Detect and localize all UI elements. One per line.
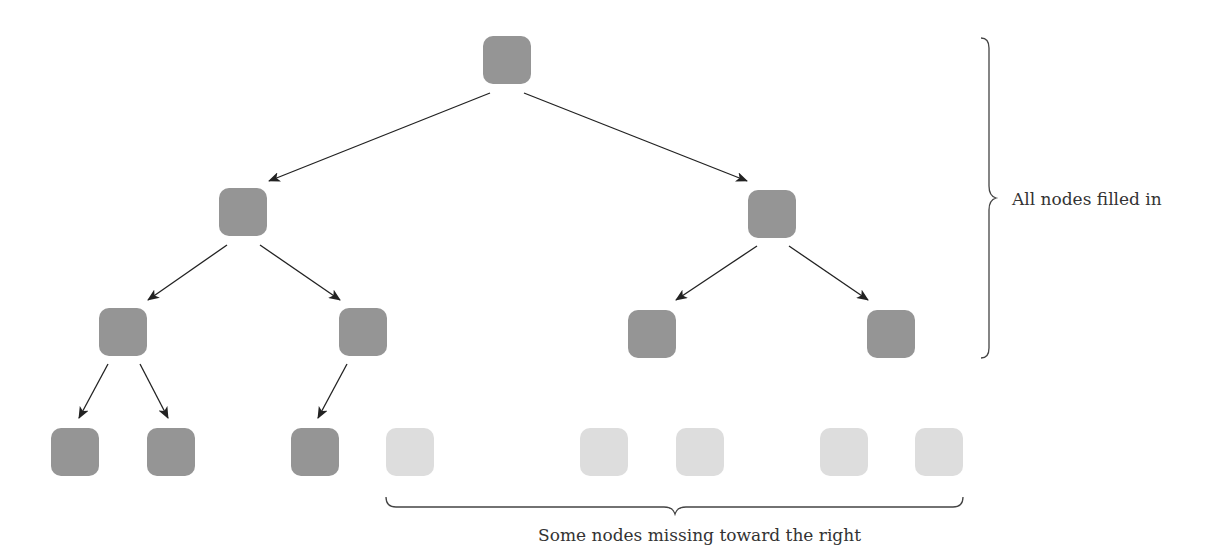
- edge-arrow-n2-n4: [148, 245, 227, 300]
- tree-node-missing-n11: [386, 428, 434, 476]
- edge-arrow-n1-n2: [269, 93, 490, 181]
- edge-arrow-n4-n9: [140, 364, 168, 418]
- tree-node-filled-n9: [147, 428, 195, 476]
- right-brace-label: All nodes filled in: [1012, 189, 1162, 209]
- tree-node-missing-n14: [820, 428, 868, 476]
- bottom-brace-label: Some nodes missing toward the right: [538, 525, 861, 545]
- tree-diagram: All nodes filled in Some nodes missing t…: [0, 0, 1227, 552]
- edge-arrow-n5-n10: [318, 364, 347, 418]
- edges-group: [79, 93, 868, 418]
- tree-node-filled-n1: [483, 36, 531, 84]
- tree-node-missing-n13: [676, 428, 724, 476]
- right-brace-icon: [981, 38, 996, 358]
- edge-arrow-n3-n6: [676, 246, 757, 300]
- tree-node-filled-n3: [748, 190, 796, 238]
- tree-node-filled-n6: [628, 310, 676, 358]
- edge-arrow-n4-n8: [79, 364, 108, 418]
- bottom-brace-icon: [386, 497, 963, 514]
- tree-node-filled-n8: [51, 428, 99, 476]
- tree-node-filled-n4: [99, 308, 147, 356]
- tree-node-filled-n7: [867, 310, 915, 358]
- edge-arrow-n3-n7: [789, 246, 868, 300]
- tree-node-filled-n2: [219, 188, 267, 236]
- tree-node-missing-n15: [915, 428, 963, 476]
- edge-arrow-n1-n3: [524, 93, 747, 181]
- nodes-group: [51, 36, 963, 476]
- diagram-svg: [0, 0, 1227, 552]
- tree-node-filled-n10: [291, 428, 339, 476]
- edge-arrow-n2-n5: [260, 245, 340, 300]
- tree-node-filled-n5: [339, 308, 387, 356]
- tree-node-missing-n12: [580, 428, 628, 476]
